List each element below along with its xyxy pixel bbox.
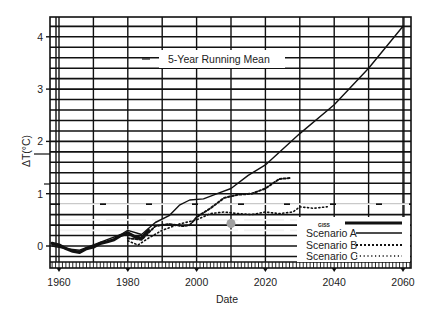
chart-title: 5-Year Running Mean [168, 53, 270, 65]
legend: GISSScenario AScenario BScenario C [297, 217, 410, 262]
major-tick [332, 268, 337, 272]
x-tick-label: 2020 [254, 276, 278, 288]
major-tick [125, 268, 130, 272]
legend-label: Scenario A [306, 227, 357, 239]
y-tick-label: 1 [37, 188, 43, 200]
major-tick [401, 268, 406, 272]
major-tick [194, 268, 199, 272]
major-tick [263, 268, 268, 272]
x-tick-label: 2040 [323, 276, 347, 288]
x-tick-label: 1980 [116, 276, 140, 288]
y-tick-label: 2 [37, 135, 43, 147]
temperature-projection-chart: 5-Year Running Mean GISSScenario AScenar… [0, 0, 428, 317]
x-axis-title: Date [216, 293, 238, 305]
x-axis-labels: 196019802000202020402060 [47, 276, 415, 288]
gray-marker [227, 219, 236, 228]
y-tick-label: 0 [37, 240, 43, 252]
chart-title-group: 5-Year Running Mean [142, 50, 285, 68]
y-axis-title: ΔT(°C) [20, 135, 32, 167]
y-tick-label: 4 [37, 31, 43, 43]
x-tick-label: 1960 [47, 276, 71, 288]
x-tick-label: 2060 [391, 276, 415, 288]
legend-label: Scenario C [306, 250, 358, 262]
x-tick-label: 2000 [185, 276, 209, 288]
major-tick [57, 268, 62, 272]
y-axis-labels: 01234 [37, 31, 43, 252]
y-tick-label: 3 [37, 83, 43, 95]
